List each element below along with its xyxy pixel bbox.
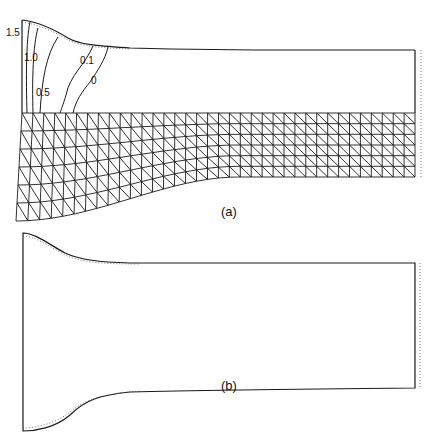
contour-label: 0	[91, 75, 97, 86]
panel-a: 1.5 1.0 0.5 0.1 0 (a)	[6, 20, 421, 221]
contour-labels: 1.5 1.0 0.5 0.1 0	[6, 27, 97, 98]
mesh-lines	[16, 113, 415, 221]
panel-b-reference-bottom	[23, 391, 140, 428]
contour-0-5	[40, 37, 58, 113]
finite-element-mesh	[16, 113, 415, 221]
panel-a-label: (a)	[221, 204, 237, 219]
panel-a-reference-surface	[22, 22, 130, 49]
mesh-figure: 1.5 1.0 0.5 0.1 0 (a) (b)	[0, 0, 440, 447]
contour-lines	[26, 22, 108, 113]
contour-label: 0.1	[80, 55, 94, 66]
panel-b-boundary	[23, 233, 415, 431]
panel-b-reference-top	[23, 236, 140, 264]
panel-b: (b)	[23, 233, 420, 431]
contour-label: 0.5	[36, 87, 50, 98]
contour-1-5	[26, 22, 30, 113]
contour-label: 1.0	[24, 52, 38, 63]
contour-label: 1.5	[6, 27, 20, 38]
contour-1-0	[33, 28, 38, 113]
panel-b-label: (b)	[221, 378, 237, 393]
panel-a-top-boundary	[22, 20, 415, 50]
